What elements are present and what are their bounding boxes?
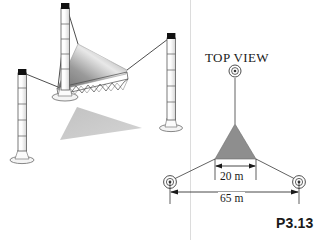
top-view	[164, 65, 306, 204]
mast-center-cap	[61, 3, 69, 9]
mast-right	[160, 33, 183, 132]
mast-right-cap	[167, 33, 175, 39]
guy-line-bottom-right	[256, 159, 297, 180]
ground-shadow	[60, 107, 142, 140]
arrow-65-left	[170, 189, 178, 194]
mast-right-shaft	[167, 38, 175, 120]
cable-right	[127, 36, 172, 70]
problem-id-label: P3.13	[276, 215, 314, 231]
figure-canvas	[0, 0, 321, 240]
mast-left-cap	[18, 69, 26, 75]
cable-left	[24, 73, 59, 87]
perspective-view	[10, 3, 183, 164]
mast-center-shaft	[61, 8, 69, 90]
figure-p3-13: TOP VIEW 20 m 65 m P3.13	[0, 0, 321, 240]
anchor-top	[229, 65, 241, 77]
guy-line-bottom-left	[172, 159, 215, 180]
top-view-triangle	[215, 124, 256, 159]
arrow-20-right	[249, 164, 256, 169]
dimension-20m-label: 20 m	[220, 170, 243, 182]
top-view-title: TOP VIEW	[205, 50, 269, 66]
mast-left	[10, 69, 34, 164]
arrow-65-right	[291, 189, 299, 194]
arrow-20-left	[215, 164, 222, 169]
mast-left-shaft	[18, 73, 26, 151]
dimension-65m-label: 65 m	[218, 192, 245, 204]
